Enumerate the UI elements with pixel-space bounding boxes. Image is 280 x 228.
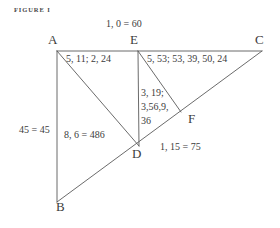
annotation-mid-left: 8, 6 = 486: [64, 130, 105, 141]
figure-container: FIGURE I A E C B D F 1, 0 = 60 5, 11; 2,…: [0, 0, 280, 228]
annotation-center-line2: 3,56,9,: [141, 100, 169, 114]
segment-ed: [138, 51, 139, 146]
annotation-upper-right: 5, 53; 53, 39, 50, 24: [147, 54, 227, 65]
annotation-top-center: 1, 0 = 60: [106, 19, 142, 30]
vertex-label-e: E: [130, 33, 138, 47]
vertex-label-f: F: [188, 112, 195, 126]
annotation-lower-right: 1, 15 = 75: [160, 142, 201, 153]
vertex-label-c: C: [255, 33, 264, 47]
vertex-label-d: D: [132, 147, 141, 161]
vertex-label-a: A: [48, 33, 57, 47]
geometry-diagram: [0, 0, 280, 228]
annotation-left-side: 45 = 45: [19, 125, 50, 136]
annotation-center-line3: 36: [141, 114, 169, 128]
vertex-label-b: B: [56, 200, 65, 214]
annotation-upper-left: 5, 11; 2, 24: [66, 54, 111, 65]
annotation-center-stack: 3, 19; 3,56,9, 36: [141, 86, 169, 128]
annotation-center-line1: 3, 19;: [141, 86, 169, 100]
